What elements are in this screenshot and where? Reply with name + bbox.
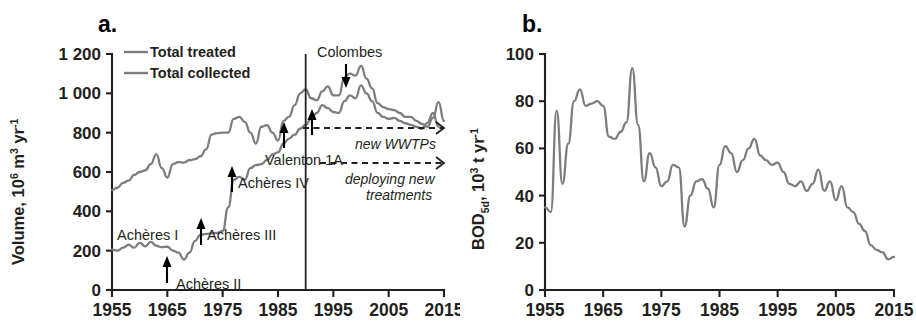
panel-b-axis-spine [545, 54, 894, 290]
figure-container: a. Volume, 106 m3 yr-1 02004006008001 00… [0, 0, 916, 329]
arrowhead-acheres-3 [197, 218, 206, 229]
annot-label-deploying-line1: deploying new [345, 171, 435, 187]
panel-a-y-axis-title: Volume, 106 m3 yr-1 [8, 118, 27, 265]
annot-label-deploying-line2: treatments [366, 187, 432, 203]
panel-a-ytick-label: 800 [73, 124, 101, 143]
legend-label-total-treated: Total treated [150, 44, 236, 60]
annot-label-valenton-1a: Valenton 1A [265, 152, 343, 168]
panel-b-xtick-label: 2005 [816, 300, 855, 320]
panel-a-ytick-label: 600 [73, 163, 101, 182]
panel-a-ytick-label: 0 [92, 281, 101, 300]
panel-b-ytick-label: 100 [506, 45, 534, 64]
panel-a-xtick-label: 1965 [148, 300, 187, 320]
panel-a-xtick-label: 1995 [314, 300, 353, 320]
annot-label-colombes: Colombes [317, 44, 382, 60]
panel-b-xtick-label: 1995 [758, 300, 797, 320]
panel-a-svg: a. Volume, 106 m3 yr-1 02004006008001 00… [0, 0, 460, 329]
panel-a-ytick-label: 1 000 [58, 84, 101, 103]
panel-b: b. BOD5d, 103 t yr-1 0204060801001955196… [456, 0, 916, 329]
panel-a-xtick-label: 2015 [425, 300, 460, 320]
panel-b-ytick-label: 20 [515, 234, 534, 253]
arrowhead-acheres-4 [228, 166, 237, 177]
panel-a-ytick-label: 200 [73, 242, 101, 261]
annot-label-acheres-2: Achères II [176, 276, 241, 292]
panel-a-ytick-label: 1 200 [58, 45, 101, 64]
arrowhead-acheres-2 [163, 256, 172, 267]
panel-b-svg: b. BOD5d, 103 t yr-1 0204060801001955196… [456, 0, 916, 329]
panel-a-trend-arrows: new WWTPs deploying new treatments [303, 122, 444, 203]
event-arrow-acheres-3 [197, 218, 206, 245]
event-arrow-acheres-2 [163, 256, 172, 283]
panel-a: a. Volume, 106 m3 yr-1 02004006008001 00… [0, 0, 460, 329]
panel-b-xtick-label: 1985 [700, 300, 739, 320]
annot-label-acheres-1: Achères I [117, 227, 178, 243]
panel-a-legend: Total treated Total collected [124, 44, 250, 81]
panel-b-letter: b. [522, 11, 542, 37]
panel-b-axes: 0204060801001955196519751985199520052015 [506, 45, 914, 320]
annot-label-acheres-4: Achères IV [238, 175, 309, 191]
panel-b-xtick-label: 1975 [642, 300, 681, 320]
panel-a-xtick-label: 1975 [203, 300, 242, 320]
panel-a-ytick-label: 400 [73, 202, 101, 221]
panel-b-ytick-label: 0 [525, 281, 534, 300]
panel-b-series [545, 68, 894, 259]
panel-a-xtick-label: 1985 [259, 300, 298, 320]
panel-b-ytick-label: 40 [515, 187, 534, 206]
panel-a-xtick-label: 1955 [93, 300, 132, 320]
panel-b-xtick-label: 2015 [875, 300, 914, 320]
panel-b-ytick-label: 80 [515, 92, 534, 111]
annot-label-new-wwtps: new WWTPs [355, 136, 436, 152]
legend-label-total-collected: Total collected [150, 65, 250, 81]
panel-b-series-1 [545, 68, 894, 259]
panel-b-ytick-label: 60 [515, 139, 534, 158]
panel-a-letter: a. [98, 11, 117, 37]
panel-a-xtick-label: 2005 [369, 300, 408, 320]
panel-b-xtick-label: 1965 [584, 300, 623, 320]
annot-label-acheres-3: Achères III [207, 227, 276, 243]
panel-b-xtick-label: 1955 [526, 300, 565, 320]
panel-b-y-axis-title: BOD5d, 103 t yr-1 [468, 128, 491, 250]
